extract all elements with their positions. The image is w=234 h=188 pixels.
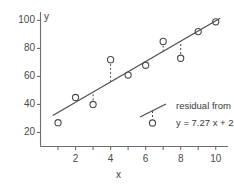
y-tick-label: 80 [4, 43, 35, 53]
axes [37, 12, 228, 150]
legend-label-residual: residual from [176, 101, 231, 111]
x-tick-label: 4 [99, 154, 123, 164]
scatter-plot-figure: 10080604020 246810 y x residual from y =… [0, 0, 234, 188]
y-tick-label: 60 [4, 71, 35, 81]
y-tick-label: 20 [4, 127, 35, 137]
y-tick-label: 100 [4, 15, 35, 25]
legend-residual-icon [140, 104, 166, 126]
x-tick-label: 8 [169, 154, 193, 164]
x-tick-label: 2 [64, 154, 88, 164]
y-tick-label: 40 [4, 99, 35, 109]
y-axis-title: y [44, 12, 49, 22]
x-axis-title: x [116, 170, 121, 180]
legend-label-equation: y = 7.27 x + 27 [176, 118, 234, 128]
x-tick-label: 10 [204, 154, 228, 164]
residual-lines [93, 42, 181, 101]
x-tick-label: 6 [134, 154, 158, 164]
